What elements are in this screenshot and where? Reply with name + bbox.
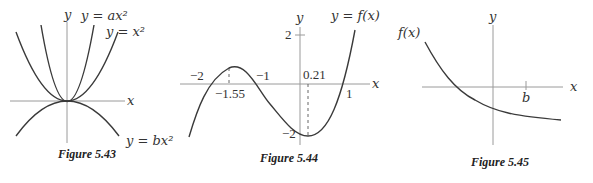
- label-f-of-x: y = f(x): [330, 8, 380, 23]
- figures-canvas: y x y = ax² y = x² y = bx² Figure 5.43 y…: [0, 0, 593, 183]
- tick-x-1: 1: [346, 86, 353, 101]
- caption-5-43: Figure 5.43: [57, 147, 116, 161]
- label-f-of-x: f(x): [397, 25, 420, 40]
- tick-y-2: 2: [285, 27, 292, 42]
- figure-5-44: y x y = f(x) 2 −2 −2 −1 1 −1.55 0.21 Fig…: [180, 8, 380, 165]
- x-axis-label: x: [570, 79, 578, 94]
- label-bx-squared: y = bx²: [125, 133, 173, 148]
- y-axis-label: y: [63, 7, 72, 22]
- figure-5-45: y x f(x) b Figure 5.45: [397, 9, 578, 169]
- y-axis-label: y: [488, 9, 497, 24]
- tick-x-neg1: −1: [256, 68, 270, 83]
- tick-y-neg2: −2: [282, 126, 296, 141]
- tick-x-max: −1.55: [215, 86, 245, 101]
- label-x-squared: y = x²: [105, 24, 145, 39]
- tick-x-min: 0.21: [303, 67, 326, 82]
- figure-5-43: y x y = ax² y = x² y = bx² Figure 5.43: [10, 7, 173, 161]
- tick-b: b: [522, 90, 530, 105]
- x-axis-label: x: [127, 93, 135, 108]
- tick-x-neg2: −2: [190, 68, 204, 83]
- caption-5-44: Figure 5.44: [259, 151, 318, 165]
- x-axis-label: x: [372, 76, 380, 91]
- caption-5-45: Figure 5.45: [470, 155, 529, 169]
- label-ax-squared: y = ax²: [80, 8, 128, 23]
- y-axis-label: y: [295, 10, 304, 25]
